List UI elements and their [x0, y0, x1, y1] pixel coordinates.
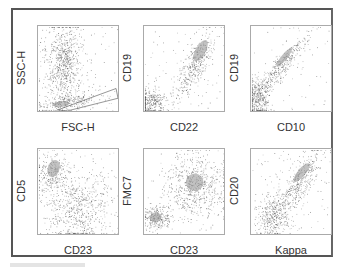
y-axis-label: CD5 [15, 180, 27, 202]
plot-fsc-ssc: SSC-H FSC-H [37, 25, 119, 112]
x-axis-label: CD10 [250, 121, 332, 133]
caption-placeholder [10, 263, 85, 267]
scatter-area [250, 25, 332, 112]
plot-kappa-cd20: CD20 Kappa [250, 148, 332, 235]
plot-cd10-cd19: CD19 CD10 [250, 25, 332, 112]
scatter-area [37, 25, 119, 112]
scatter-area [143, 25, 225, 112]
scatter-dots [144, 149, 224, 234]
scatter-area [37, 148, 119, 235]
scatter-dots [38, 26, 118, 111]
y-axis-label: CD20 [228, 177, 240, 205]
y-axis-label: FMC7 [121, 176, 133, 206]
scatter-dots [144, 26, 224, 111]
scatter-area [143, 148, 225, 235]
scatter-dots [38, 149, 118, 234]
scatter-dots [251, 26, 331, 111]
x-axis-label: FSC-H [37, 121, 119, 133]
scatter-dots [251, 149, 331, 234]
y-axis-label: CD19 [228, 54, 240, 82]
x-axis-label: Kappa [250, 244, 332, 256]
x-axis-label: CD23 [37, 244, 119, 256]
x-axis-label: CD23 [143, 244, 225, 256]
plot-cd23-cd5: CD5 CD23 [37, 148, 119, 235]
scatter-area [250, 148, 332, 235]
y-axis-label: SSC-H [15, 51, 27, 85]
plot-cd22-cd19: CD19 CD22 [143, 25, 225, 112]
plot-cd23-fmc7: FMC7 CD23 [143, 148, 225, 235]
x-axis-label: CD22 [143, 121, 225, 133]
y-axis-label: CD19 [121, 54, 133, 82]
